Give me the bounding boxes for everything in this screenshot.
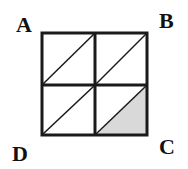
label-b: B [159, 10, 174, 32]
label-a: A [16, 14, 32, 36]
label-d: D [12, 143, 28, 165]
diagonal-bottom-left [43, 86, 94, 134]
diagonal-top-left [43, 34, 94, 84]
diagram-canvas: A B C D [0, 0, 188, 169]
label-c: C [159, 136, 175, 158]
diagonal-top-right [96, 34, 146, 84]
